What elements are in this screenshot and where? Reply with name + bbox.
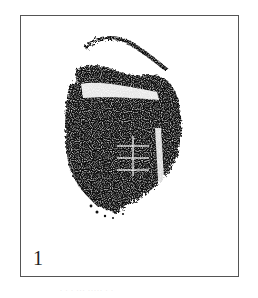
specimen-image [57, 36, 207, 221]
faint-caption-artifact: · · · ··· ····· · · [60, 288, 250, 296]
figure-plate: 1 [20, 15, 239, 277]
panel-label: 1 [33, 248, 43, 268]
